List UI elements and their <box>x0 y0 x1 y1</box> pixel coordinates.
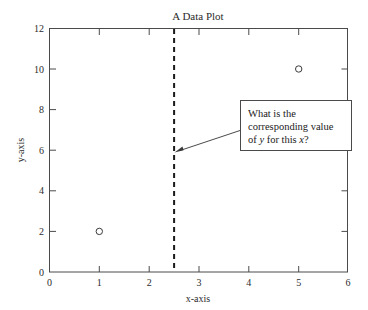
y-axis-ticks <box>50 69 56 231</box>
x-tick-label-2: 2 <box>147 277 152 288</box>
data-plot-canvas: A Data Plot <box>0 0 368 310</box>
callout-text-run: for this <box>264 134 299 145</box>
y-tick-label-12: 12 <box>34 23 44 34</box>
data-point-marker <box>96 228 102 234</box>
callout-leader-line <box>180 131 240 151</box>
callout-text-run: ? <box>304 134 309 145</box>
y-axis-label: y-axis <box>15 138 26 163</box>
y-tick-label-8: 8 <box>39 104 44 115</box>
chart-figure: A Data Plot <box>0 0 368 310</box>
x-tick-label-0: 0 <box>47 277 52 288</box>
x-tick-label-5: 5 <box>296 277 301 288</box>
x-tick-label-4: 4 <box>246 277 251 288</box>
y-tick-label-2: 2 <box>39 226 44 237</box>
y-tick-label-6: 6 <box>39 145 44 156</box>
x-tick-label-3: 3 <box>197 277 202 288</box>
callout-arrow-head <box>175 147 184 153</box>
callout-text-run: What is the <box>248 108 296 119</box>
x-axis-ticks <box>99 266 298 272</box>
callout-line-2: corresponding value <box>248 121 334 132</box>
data-point-marker <box>296 66 302 72</box>
y-tick-label-10: 10 <box>34 64 44 75</box>
x-tick-label-1: 1 <box>97 277 102 288</box>
callout-text-run: corresponding value <box>248 121 334 132</box>
y-tick-label-4: 4 <box>39 185 44 196</box>
x-axis-ticks-top <box>99 29 298 35</box>
chart-title: A Data Plot <box>172 10 223 22</box>
x-axis-label: x-axis <box>186 293 211 304</box>
callout-line-1: What is the <box>248 108 296 119</box>
x-tick-label-6: 6 <box>346 277 351 288</box>
y-tick-label-0: 0 <box>39 267 44 278</box>
callout-line-3: of y for this x? <box>248 134 309 145</box>
callout-text-run: of <box>248 134 259 145</box>
